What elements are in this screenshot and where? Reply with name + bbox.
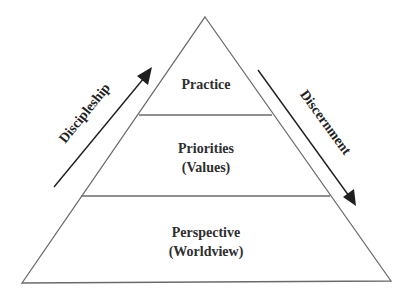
arrow-discernment: Discernment [258, 70, 356, 206]
level-bottom-sublabel: (Worldview) [169, 244, 244, 260]
level-middle: Priorities (Values) [178, 141, 235, 176]
level-bottom: Perspective (Worldview) [169, 225, 244, 260]
arrow-discipleship-label: Discipleship [56, 80, 113, 146]
arrow-discipleship: Discipleship [54, 67, 152, 187]
level-top: Practice [182, 77, 231, 92]
arrow-discernment-label: Discernment [297, 87, 354, 158]
level-middle-label: Priorities [178, 141, 235, 156]
level-top-label: Practice [182, 77, 231, 92]
arrow-up-head-icon [137, 67, 152, 85]
level-middle-sublabel: (Values) [182, 160, 231, 176]
pyramid-diagram: Practice Priorities (Values) Perspective… [0, 0, 413, 298]
level-bottom-label: Perspective [172, 225, 240, 240]
